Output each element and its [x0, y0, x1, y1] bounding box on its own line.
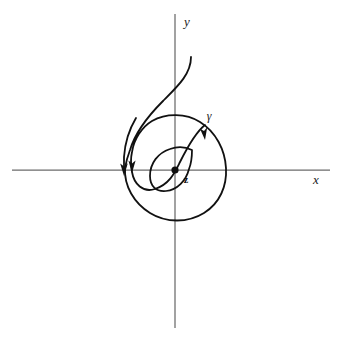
point-z-label: z: [184, 174, 189, 185]
spiral-diagram-svg: x y γ z: [0, 0, 345, 342]
x-axis-label: x: [312, 172, 319, 187]
point-z-marker: [171, 166, 178, 173]
figure-canvas: x y γ z: [0, 0, 345, 342]
y-axis-label: y: [182, 14, 190, 29]
gamma-curve-label: γ: [207, 109, 212, 123]
